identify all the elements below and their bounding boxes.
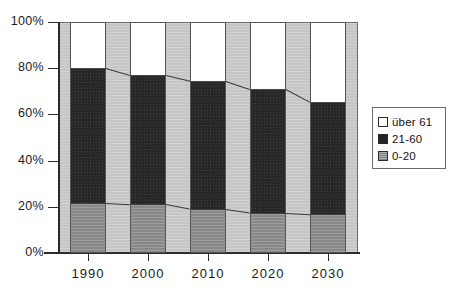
x-axis-label: 2010 <box>176 266 240 281</box>
stacked-bar-chart: 0%20%40%60%80%100% 19902000201020202030 … <box>0 0 452 294</box>
x-axis-label: 2030 <box>296 266 360 281</box>
x-tick-mark <box>88 254 89 261</box>
legend: über 61 21-60 0-20 <box>372 107 446 169</box>
bar-segment-21-60[interactable] <box>70 68 106 203</box>
legend-item-ueber-61[interactable]: über 61 <box>378 113 445 130</box>
x-axis-label: 2000 <box>116 266 180 281</box>
bar-segment-21-60[interactable] <box>190 81 226 209</box>
bar-column[interactable] <box>190 22 226 253</box>
bar-segment-21-60[interactable] <box>310 102 346 214</box>
y-tick-mark <box>48 114 58 115</box>
y-axis-label: 0% <box>0 245 44 259</box>
y-tick-mark <box>48 68 58 69</box>
x-tick-mark <box>208 254 209 261</box>
y-axis-label: 40% <box>0 153 44 167</box>
x-axis-label: 1990 <box>56 266 120 281</box>
bar-segment-ueber-61[interactable] <box>70 22 106 68</box>
bar-column[interactable] <box>310 22 346 253</box>
bar-segment-0-20[interactable] <box>310 214 346 253</box>
white-swatch-icon <box>378 117 388 127</box>
bar-segment-ueber-61[interactable] <box>250 22 286 89</box>
x-tick-mark <box>148 254 149 261</box>
y-axis-label: 80% <box>0 60 44 74</box>
y-axis-label: 20% <box>0 199 44 213</box>
y-axis-label: 100% <box>0 14 44 28</box>
bar-column[interactable] <box>130 22 166 253</box>
legend-item-label: über 61 <box>392 116 432 128</box>
legend-item-0-20[interactable]: 0-20 <box>378 147 445 164</box>
x-axis-label: 2020 <box>236 266 300 281</box>
bar-column[interactable] <box>70 22 106 253</box>
bar-segment-ueber-61[interactable] <box>130 22 166 75</box>
bar-segment-21-60[interactable] <box>130 75 166 204</box>
legend-item-label: 0-20 <box>392 150 416 162</box>
y-axis-line <box>58 22 60 254</box>
y-tick-mark <box>48 161 58 162</box>
gray-swatch-icon <box>378 151 388 161</box>
bar-segment-0-20[interactable] <box>70 203 106 253</box>
x-tick-mark <box>328 254 329 261</box>
y-tick-mark <box>48 22 58 23</box>
bar-segment-ueber-61[interactable] <box>310 22 346 102</box>
bar-segment-ueber-61[interactable] <box>190 22 226 81</box>
bar-segment-0-20[interactable] <box>130 204 166 253</box>
bar-segment-21-60[interactable] <box>250 89 286 213</box>
legend-item-label: 21-60 <box>392 133 422 145</box>
y-tick-mark <box>48 207 58 208</box>
x-tick-mark <box>268 254 269 261</box>
black-swatch-icon <box>378 134 388 144</box>
y-tick-mark <box>48 253 58 254</box>
bar-segment-0-20[interactable] <box>250 213 286 253</box>
legend-item-21-60[interactable]: 21-60 <box>378 130 445 147</box>
y-axis-label: 60% <box>0 106 44 120</box>
bar-column[interactable] <box>250 22 286 253</box>
bar-segment-0-20[interactable] <box>190 209 226 253</box>
